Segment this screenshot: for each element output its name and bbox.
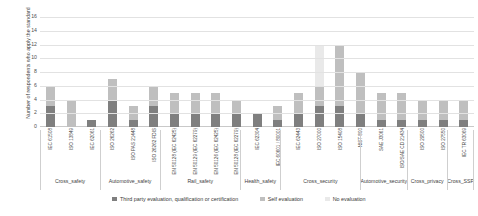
bar-segment[interactable] bbox=[191, 113, 200, 127]
y-axis-tick-label: 0 bbox=[34, 124, 37, 129]
bar-segment[interactable] bbox=[356, 113, 365, 127]
gridline bbox=[40, 113, 474, 114]
stacked-bar[interactable] bbox=[294, 93, 303, 127]
bar-segment[interactable] bbox=[294, 93, 303, 114]
bar-segment[interactable] bbox=[170, 93, 179, 114]
x-axis-tick-labels: IEC 61508ISO 13849IEC 62061ISO 26262ISO … bbox=[40, 128, 474, 174]
legend-label: Self evaluation bbox=[268, 196, 303, 202]
bar-segment[interactable] bbox=[294, 113, 303, 127]
stacked-bar-chart: Number of respondents who apply the stan… bbox=[0, 0, 478, 216]
bar-segment[interactable] bbox=[211, 113, 220, 127]
bar-segment[interactable] bbox=[397, 93, 406, 121]
bar-segment[interactable] bbox=[253, 113, 262, 127]
y-axis-tick-label: 8 bbox=[34, 69, 37, 74]
legend-item[interactable]: Self evaluation bbox=[260, 196, 303, 202]
bar-segment[interactable] bbox=[170, 113, 179, 127]
y-axis-tick-label: 6 bbox=[34, 83, 37, 88]
stacked-bar[interactable] bbox=[191, 93, 200, 127]
stacked-bar[interactable] bbox=[273, 106, 282, 127]
stacked-bar[interactable] bbox=[129, 106, 138, 127]
bar-segment[interactable] bbox=[439, 120, 448, 127]
bar-segment[interactable] bbox=[46, 86, 55, 107]
bar-segment[interactable] bbox=[211, 93, 220, 114]
x-axis-tick-label: EN 50128 (IEC 62425) bbox=[172, 128, 177, 174]
x-axis-tick-label: ISO PAS 21448 bbox=[131, 128, 136, 160]
x-label-slot: EN 50128 (IEC 62279) bbox=[226, 128, 247, 174]
legend-label: No evaluation bbox=[333, 196, 366, 202]
x-label-slot: SAE J3061 bbox=[371, 128, 392, 174]
x-label-slot: ISO 15408 bbox=[329, 128, 350, 174]
bar-segment[interactable] bbox=[356, 72, 365, 113]
x-label-slot: IEC 60601 / 80001 bbox=[267, 128, 288, 174]
x-axis-tick-label: ISO 29500 bbox=[420, 128, 425, 150]
category-group-label: Cross_safety bbox=[40, 174, 100, 188]
bar-segment[interactable] bbox=[418, 100, 427, 121]
bar-segment[interactable] bbox=[315, 86, 324, 107]
category-group-label: Cross_privacy bbox=[407, 174, 447, 188]
x-axis-tick-label: ISO 27000 bbox=[317, 128, 322, 150]
x-label-slot: IEC 61508 bbox=[40, 128, 61, 174]
stacked-bar[interactable] bbox=[87, 120, 96, 127]
y-axis-tick-label: 4 bbox=[34, 97, 37, 102]
gridline bbox=[40, 17, 474, 18]
x-label-slot: ISO 13849 bbox=[61, 128, 82, 174]
category-group-label: Automotive_safety bbox=[100, 174, 160, 188]
bar-segment[interactable] bbox=[335, 45, 344, 107]
bar-segment[interactable] bbox=[377, 120, 386, 127]
bar-segment[interactable] bbox=[149, 106, 158, 127]
stacked-bar[interactable] bbox=[46, 86, 55, 127]
bar-segment[interactable] bbox=[273, 120, 282, 127]
stacked-bar[interactable] bbox=[253, 113, 262, 127]
bar-segment[interactable] bbox=[315, 45, 324, 86]
x-axis-tick-label: IEC 62304 bbox=[255, 128, 260, 150]
x-axis-tick-label: ISO/SAE CD 21434 bbox=[399, 128, 404, 168]
x-label-slot: IEC 62443 bbox=[288, 128, 309, 174]
x-axis-tick-label: ISO 27550 bbox=[441, 128, 446, 150]
x-label-slot: ISO PAS 21448 bbox=[123, 128, 144, 174]
y-axis-title: Number of respondents who apply the stan… bbox=[25, 0, 31, 138]
gridline bbox=[40, 31, 474, 32]
bar-segment[interactable] bbox=[459, 100, 468, 121]
bar-segment[interactable] bbox=[191, 93, 200, 114]
legend-item[interactable]: Third party evaluation, qualification or… bbox=[112, 196, 238, 202]
x-label-slot: ISO 27550 bbox=[433, 128, 454, 174]
bar-segment[interactable] bbox=[335, 106, 344, 127]
stacked-bar[interactable] bbox=[211, 93, 220, 127]
stacked-bar[interactable] bbox=[149, 86, 158, 127]
bar-segment[interactable] bbox=[315, 106, 324, 127]
bar-segment[interactable] bbox=[397, 120, 406, 127]
y-axis-tick-label: 2 bbox=[34, 111, 37, 116]
bar-segment[interactable] bbox=[87, 120, 96, 127]
x-axis-tick-label: ISO 13849 bbox=[69, 128, 74, 150]
x-axis-tick-label: IEC 62061 bbox=[89, 128, 94, 150]
bar-segment[interactable] bbox=[129, 120, 138, 127]
bar-segment[interactable] bbox=[232, 113, 241, 127]
bar-segment[interactable] bbox=[232, 100, 241, 114]
stacked-bar[interactable] bbox=[397, 93, 406, 127]
x-label-slot: EN 50128 (IEC 62425) bbox=[164, 128, 185, 174]
bar-segment[interactable] bbox=[377, 93, 386, 121]
category-group-label: Cross_security bbox=[280, 174, 360, 188]
bar-segment[interactable] bbox=[439, 100, 448, 121]
legend-swatch bbox=[260, 197, 265, 202]
x-label-slot: IEC TR 63069 bbox=[453, 128, 474, 174]
stacked-bar[interactable] bbox=[377, 93, 386, 127]
legend-label: Third party evaluation, qualification or… bbox=[120, 196, 238, 202]
bar-segment[interactable] bbox=[108, 79, 117, 100]
x-label-slot: IEC 62061 bbox=[81, 128, 102, 174]
gridline bbox=[40, 86, 474, 87]
x-axis-tick-label: SAE J3061 bbox=[379, 128, 384, 151]
bar-segment[interactable] bbox=[46, 106, 55, 127]
category-group-label: Automotive_security bbox=[360, 174, 407, 188]
x-axis-tick-label: ISO 26262 bbox=[110, 128, 115, 150]
bar-segment[interactable] bbox=[418, 120, 427, 127]
x-axis-tick-label: EN 50128 (IEC 62279) bbox=[234, 128, 239, 174]
x-axis-tick-label: ISO 26262 FDIS bbox=[151, 128, 156, 162]
bar-segment[interactable] bbox=[459, 120, 468, 127]
stacked-bar[interactable] bbox=[170, 93, 179, 127]
bar-segment[interactable] bbox=[149, 86, 158, 107]
x-axis-tick-label: IEC 62443 bbox=[296, 128, 301, 150]
legend-item[interactable]: No evaluation bbox=[325, 196, 365, 202]
plot-area: 0246810121416 bbox=[40, 17, 474, 127]
y-axis-tick-label: 14 bbox=[31, 28, 37, 33]
